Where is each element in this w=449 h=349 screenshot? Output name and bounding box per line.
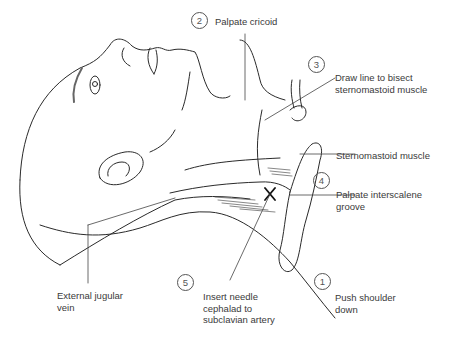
muscle-hatching	[215, 168, 292, 212]
neck-line-upper	[185, 158, 280, 170]
lips	[148, 48, 157, 74]
sternomastoid-outline	[257, 110, 262, 175]
eyebrow	[73, 68, 82, 102]
ear	[99, 152, 143, 185]
jaw-line	[150, 130, 175, 152]
ear-inner	[108, 162, 130, 176]
step-4-label: Palpate interscalene groove	[336, 189, 422, 212]
step-5-label: Insert needle cephalad to subclavian art…	[203, 291, 275, 326]
head-outline	[20, 39, 230, 180]
clavicle-shape	[279, 143, 322, 272]
nose	[122, 48, 130, 66]
neck-line-lower	[60, 197, 250, 266]
eye	[90, 76, 100, 94]
step-2-badge: 2	[191, 12, 208, 29]
step-2-label: Palpate cricoid	[215, 16, 277, 28]
step-3-label: Draw line to bisect sternomastoid muscle	[335, 72, 427, 95]
sternomastoid-label: Sternomastoid muscle	[336, 150, 430, 162]
diagram-canvas: 2 Palpate cricoid 3 Draw line to bisect …	[0, 0, 449, 349]
clinician-arm	[240, 40, 285, 100]
step-3-badge: 3	[308, 56, 325, 73]
step-1-label: Push shoulder down	[335, 292, 396, 315]
external-jugular-vein-label: External jugular vein	[57, 290, 123, 313]
step-4-badge: 4	[313, 172, 330, 189]
step-1-badge: 1	[314, 273, 331, 290]
head-back	[20, 180, 60, 265]
chin-line	[182, 72, 190, 110]
pupil	[93, 82, 98, 87]
step-5-badge: 5	[177, 274, 194, 291]
